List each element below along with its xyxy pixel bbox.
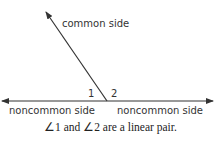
common-side-label: common side <box>62 18 129 29</box>
noncommon-side-left-label: noncommon side <box>9 105 95 116</box>
caption: ∠1 and ∠2 are a linear pair. <box>0 120 221 134</box>
noncommon-side-right-label: noncommon side <box>117 105 203 116</box>
angle-2-label: 2 <box>111 88 117 99</box>
angle-1-label: 1 <box>88 88 94 99</box>
